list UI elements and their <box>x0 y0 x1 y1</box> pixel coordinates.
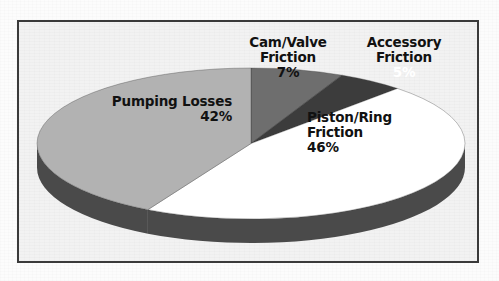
slice-label-accessory-friction: Accessory Friction 5% <box>349 35 459 80</box>
slice-label-line1: Pumping Losses <box>112 93 232 109</box>
slice-percent-value: 5% <box>349 65 459 80</box>
slice-label-line2: Friction <box>376 49 432 65</box>
slice-label-line1: Piston/Ring <box>307 109 392 125</box>
slice-label-line2: Friction <box>260 49 316 65</box>
slice-percent-value: 46% <box>307 140 427 155</box>
slice-label-line1: Accessory <box>367 34 442 50</box>
slice-percent-value: 42% <box>80 109 232 124</box>
slice-label-line2: Friction <box>307 124 363 140</box>
slice-label-cam-valve-friction: Cam/Valve Friction 7% <box>236 35 340 80</box>
chart-figure: Cam/Valve Friction 7% Accessory Friction… <box>0 0 499 281</box>
slice-label-line1: Cam/Valve <box>249 34 327 50</box>
slice-percent-value: 7% <box>236 65 340 80</box>
slice-label-pumping-losses: Pumping Losses 42% <box>80 94 232 124</box>
slice-label-piston-ring-friction: Piston/Ring Friction 46% <box>307 110 427 155</box>
